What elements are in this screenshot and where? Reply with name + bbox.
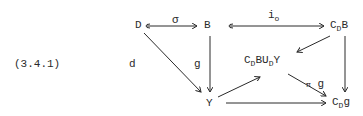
node-d: D <box>135 20 142 31</box>
pushout-union: U <box>262 54 269 66</box>
label-d: d <box>129 59 136 70</box>
pushout-y: Y <box>273 54 280 66</box>
node-cdb-tail: B <box>341 19 348 31</box>
label-pi: π <box>306 80 311 89</box>
equation-number: (3.4.1) <box>14 59 60 70</box>
node-cdb: CDB <box>330 20 348 31</box>
node-pushout: CDBUDY <box>244 55 280 66</box>
label-i0-sub: o <box>275 14 280 23</box>
node-cdg-sub: D <box>339 101 344 110</box>
node-y: Y <box>206 98 213 109</box>
label-sigma: σ <box>172 15 179 26</box>
label-i0-main: i <box>268 9 275 21</box>
node-cdg: CDg <box>332 97 350 108</box>
label-g: g <box>194 59 201 70</box>
node-cdb-sub: D <box>337 24 342 33</box>
label-pi-g: π g <box>306 79 324 90</box>
label-pi-g-g: g <box>317 78 324 90</box>
node-cdb-main: C <box>330 19 337 31</box>
pushout-sub2: D <box>269 59 274 68</box>
pushout-sub1: D <box>251 59 256 68</box>
label-i0: io <box>268 10 279 21</box>
pushout-c: C <box>244 54 251 66</box>
node-cdg-tail: g <box>343 96 350 108</box>
node-cdg-main: C <box>332 96 339 108</box>
node-b: B <box>204 20 211 31</box>
